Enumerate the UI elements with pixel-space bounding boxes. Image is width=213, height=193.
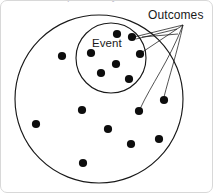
outcome-dot: [128, 33, 136, 41]
outcome-dot: [135, 107, 143, 115]
outcome-dot: [78, 106, 86, 114]
outcome-dot: [104, 125, 112, 133]
figure-card: Conditional probability formula: [0, 0, 213, 193]
outcome-dot: [58, 52, 66, 60]
outcome-dot: [87, 49, 95, 57]
leader-line-arrowhead: [142, 34, 178, 37]
outcome-dot: [97, 69, 105, 77]
outcomes-label: Outcomes: [148, 9, 204, 22]
event-circle: [76, 23, 146, 93]
outcome-dot: [155, 135, 163, 143]
venn-diagram-canvas: [1, 1, 213, 193]
outcome-dot: [127, 140, 135, 148]
leader-lines-group: [134, 25, 183, 109]
outcome-dot: [32, 120, 40, 128]
outcome-dot: [125, 75, 133, 83]
outcome-dot: [136, 50, 144, 58]
outcome-dot: [160, 96, 168, 104]
outcome-dot: [79, 159, 87, 167]
event-label: Event: [92, 37, 122, 50]
outcome-dot: [112, 60, 120, 68]
